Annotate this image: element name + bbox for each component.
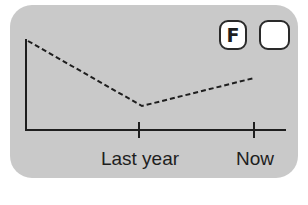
tick-label-last-year: Last year (101, 148, 179, 170)
line-chart (0, 0, 308, 205)
trend-line (28, 41, 254, 106)
tick-label-now: Now (236, 148, 274, 170)
